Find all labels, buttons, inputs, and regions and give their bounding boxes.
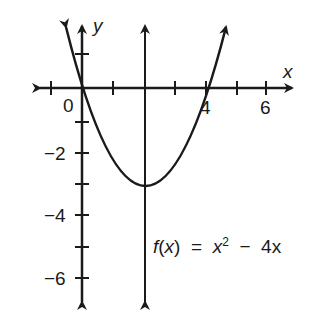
eq-exponent: 2	[222, 235, 229, 249]
tick-label-neg6: −6	[44, 269, 66, 288]
eq-term: 4x	[261, 236, 281, 257]
function-label: f(x) = x2 − 4x	[153, 236, 281, 256]
eq-x: x	[165, 236, 175, 257]
tick-label-0: 0	[63, 96, 74, 115]
x-axis-label: x	[283, 62, 293, 81]
eq-minus: −	[239, 236, 250, 257]
tick-label-6: 6	[260, 98, 271, 117]
eq-close: )	[174, 236, 180, 257]
tick-label-4: 4	[200, 98, 211, 117]
y-axis-label: y	[93, 16, 103, 35]
tick-label-neg2: −2	[44, 144, 66, 163]
eq-x2: x	[213, 236, 223, 257]
eq-equals: =	[191, 236, 202, 257]
tick-label-neg4: −4	[44, 206, 66, 225]
